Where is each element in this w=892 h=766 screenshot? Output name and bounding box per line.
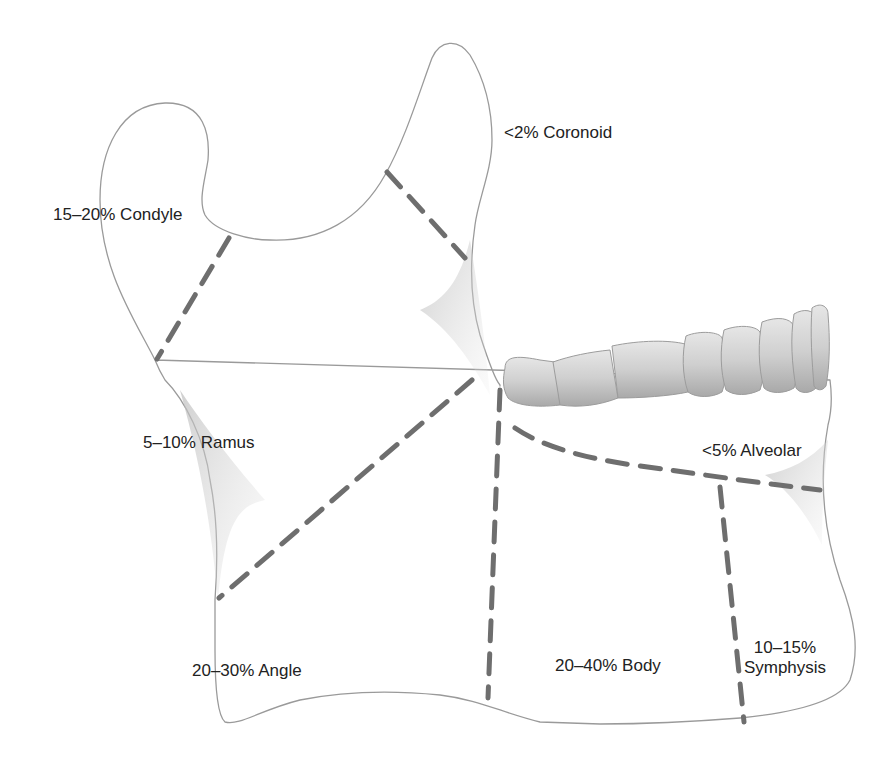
label-coronoid: <2% Coronoid: [504, 123, 612, 143]
fracture-line-body-symphysis: [720, 487, 744, 722]
label-symphysis: 10–15% Symphysis: [730, 638, 840, 678]
masseter-fan: [180, 390, 265, 600]
fracture-line-coronoid: [387, 172, 465, 258]
fracture-line-condyle: [157, 238, 229, 359]
label-symphysis-name: Symphysis: [730, 658, 840, 678]
fracture-line-ramus-angle: [219, 380, 472, 598]
label-symphysis-percent: 10–15%: [730, 638, 840, 658]
temporalis-fan: [420, 240, 490, 395]
fracture-line-angle-body: [488, 390, 500, 698]
teeth-row: [503, 305, 829, 406]
label-alveolar: <5% Alveolar: [702, 441, 802, 461]
label-condyle: 15–20% Condyle: [53, 205, 182, 225]
label-ramus: 5–10% Ramus: [143, 433, 255, 453]
label-body: 20–40% Body: [555, 656, 661, 676]
label-angle: 20–30% Angle: [192, 661, 302, 681]
